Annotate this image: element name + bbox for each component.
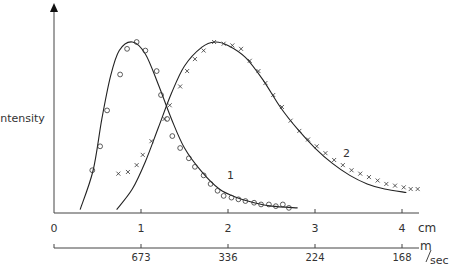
circle-marker-icon	[170, 134, 175, 139]
cross-marker-icon	[162, 117, 166, 121]
circle-marker-icon	[105, 108, 110, 113]
curve-1-label: 1	[227, 169, 234, 182]
x-tick-label: 2	[225, 222, 232, 235]
cross-marker-icon	[135, 163, 139, 167]
circle-marker-icon	[193, 164, 198, 169]
secondary-tick-label: 336	[218, 252, 237, 263]
cross-marker-icon	[315, 144, 319, 148]
x-tick-label: 1	[138, 222, 145, 235]
cross-marker-icon	[202, 49, 206, 53]
cross-marker-icon	[416, 187, 420, 191]
cross-marker-icon	[168, 103, 172, 107]
cross-marker-icon	[297, 129, 301, 133]
circle-marker-icon	[280, 202, 285, 207]
cross-marker-icon	[193, 57, 197, 61]
cross-marker-icon	[402, 185, 406, 189]
circle-marker-icon	[154, 69, 159, 74]
circle-marker-icon	[215, 188, 220, 193]
circle-marker-icon	[178, 146, 183, 151]
circle-marker-icon	[125, 46, 130, 51]
cross-marker-icon	[239, 47, 243, 51]
cross-marker-icon	[230, 43, 234, 47]
x-tick-label: 3	[312, 222, 319, 235]
cross-marker-icon	[341, 163, 345, 167]
curve-2-label: 2	[343, 147, 350, 160]
curves	[80, 42, 406, 210]
secondary-tick-label: 224	[305, 252, 324, 263]
cross-marker-icon	[185, 69, 189, 73]
circle-marker-icon	[221, 194, 226, 199]
cross-marker-icon	[141, 153, 145, 157]
x-tick-label: 0	[51, 222, 58, 235]
secondary-tick-label: 673	[131, 252, 150, 263]
curve-2	[117, 42, 407, 210]
circle-marker-icon	[118, 72, 123, 77]
intensity-chart: 01234673336224168 Intensity cm m sec 1 2	[0, 0, 461, 275]
circle-marker-icon	[98, 144, 103, 149]
y-axis-label: Intensity	[0, 112, 45, 125]
cross-marker-icon	[116, 172, 120, 176]
cross-marker-icon	[384, 182, 388, 186]
cross-marker-icon	[332, 158, 336, 162]
x-axis-unit: cm	[418, 221, 436, 235]
cross-marker-icon	[350, 168, 354, 172]
circle-marker-icon	[165, 117, 170, 122]
cross-marker-icon	[358, 172, 362, 176]
cross-marker-icon	[367, 175, 371, 179]
secondary-unit-m: m	[420, 239, 432, 253]
curve-1	[80, 42, 298, 210]
cross-marker-icon	[126, 170, 130, 174]
cross-marker-icon	[289, 119, 293, 123]
circle-marker-icon	[208, 182, 213, 187]
secondary-tick-label: 168	[392, 252, 411, 263]
secondary-unit-sec: sec	[430, 254, 449, 267]
x-tick-label: 4	[399, 222, 406, 235]
cross-marker-icon	[323, 151, 327, 155]
cross-marker-icon	[409, 187, 413, 191]
cross-marker-icon	[178, 84, 182, 88]
cross-marker-icon	[376, 179, 380, 183]
x-axis-ticks: 01234673336224168	[51, 209, 412, 263]
y-axis-arrow-icon	[50, 3, 58, 12]
cross-marker-icon	[393, 184, 397, 188]
